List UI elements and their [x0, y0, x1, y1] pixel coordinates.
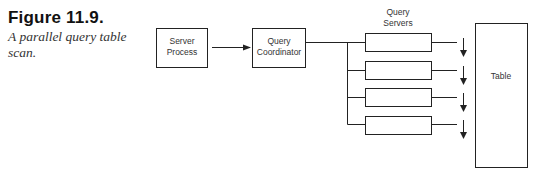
query-server-box: [366, 34, 432, 52]
arrow-down-icon: [460, 120, 467, 139]
query-coordinator-label-line1: Query: [267, 36, 291, 46]
query-server-box: [366, 62, 432, 80]
server-process-label-line1: Server: [169, 36, 194, 46]
distribution-lines: [306, 43, 365, 125]
query-servers-label-line2: Servers: [383, 18, 412, 28]
server-process-box: Server Process: [157, 29, 208, 68]
query-coordinator-box: Query Coordinator: [253, 29, 306, 68]
server-process-label-line2: Process: [167, 47, 198, 57]
server-output-lines: [431, 43, 457, 125]
arrow-down-icon: [460, 93, 467, 112]
arrow-down-icon: [460, 38, 467, 57]
table-box: Table: [476, 24, 528, 168]
arrow-down-icon: [460, 66, 467, 85]
query-coordinator-label-line2: Coordinator: [257, 47, 302, 57]
parallel-query-diagram: Server Process Query Coordinator Query S…: [0, 0, 548, 176]
query-servers-label-line1: Query: [386, 7, 410, 17]
query-server-box: [366, 117, 432, 135]
table-label: Table: [491, 71, 512, 81]
query-server-box: [366, 89, 432, 107]
